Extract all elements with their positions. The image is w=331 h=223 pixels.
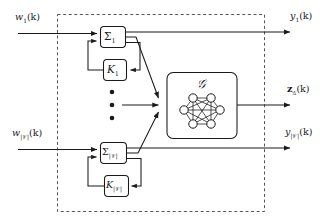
graph-node-4 <box>207 120 215 128</box>
label-output-y1: y1(k) <box>290 11 312 24</box>
edge-sigma1-to-graph <box>126 37 159 98</box>
ellipsis-dot-3 <box>110 116 115 121</box>
graph-node-3 <box>216 106 224 114</box>
label-block-graph-G: 𝒢 <box>197 78 206 90</box>
graph-node-5 <box>189 120 197 128</box>
ellipsis-dot-1 <box>110 90 115 95</box>
label-block-k-1: K1 <box>107 64 119 78</box>
ellipsis-dot-2 <box>110 103 115 108</box>
diagram-svg <box>0 0 331 223</box>
edge-sigmaV-to-graph <box>127 112 159 153</box>
label-block-sigma-1: Σ1 <box>104 31 116 45</box>
figure-canvas: w1(k) w|𝒱|(k) y1(k) z𝒢(k) y|𝒱|(k) Σ1 K1 … <box>0 0 331 223</box>
graph-node-2 <box>207 94 215 102</box>
label-input-w1: w1(k) <box>15 12 40 25</box>
label-input-wV: w|𝒱|(k) <box>12 128 42 141</box>
edge-sigma1-to-k1 <box>126 43 141 71</box>
label-output-yV: y|𝒱|(k) <box>285 127 313 140</box>
label-block-sigma-V: Σ|𝒱| <box>102 147 118 160</box>
graph-node-1 <box>189 94 197 102</box>
graph-node-6 <box>180 106 188 114</box>
label-output-zG: z𝒢(k) <box>287 84 310 97</box>
label-block-k-V: K|𝒱| <box>106 180 122 193</box>
